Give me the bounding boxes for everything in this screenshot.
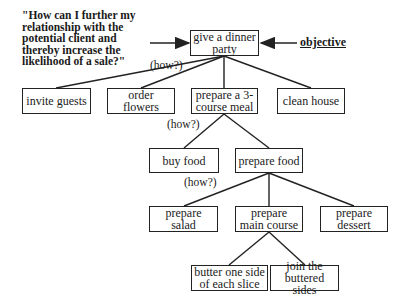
node-give-dinner-party: give a dinner party [190, 30, 259, 56]
node-invite-guests: invite guests [22, 88, 91, 114]
node-join-sides: join the buttered sides [270, 265, 339, 291]
question-text: "How can I further my relationship with … [22, 10, 152, 68]
node-butter-slices: butter one side of each slice [191, 265, 268, 291]
objective-label: objective [300, 35, 346, 50]
how-label-3: (how?) [184, 176, 217, 188]
node-prepare-food: prepare food [235, 148, 303, 173]
node-order-flowers: order flowers [107, 88, 175, 114]
node-prepare-main-course: prepare main course [235, 206, 303, 232]
node-buy-food: buy food [149, 148, 219, 173]
node-prepare-meal: prepare a 3-course meal [191, 88, 258, 114]
node-prepare-dessert: prepare dessert [320, 206, 388, 232]
how-label-1: (how?) [150, 59, 183, 71]
node-prepare-salad: prepare salad [149, 206, 218, 232]
node-clean-house: clean house [277, 88, 345, 114]
how-label-2: (how?) [167, 118, 200, 130]
